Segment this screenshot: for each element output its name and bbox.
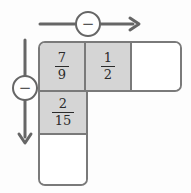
cell-left-2: 2 15 [40,92,86,135]
cell-left-answer[interactable] [40,135,86,184]
cell-top-answer[interactable] [132,43,180,90]
minus-icon: − [82,17,95,32]
fraction-grid-diagram: − − 7 9 1 2 2 15 [0,0,191,193]
cell-top-1: 7 9 [40,43,86,90]
vertical-minus-operator: − [12,75,38,101]
minus-icon: − [19,81,32,96]
fraction-denominator: 15 [52,112,75,128]
grid-top-row: 7 9 1 2 [38,41,182,92]
fraction-numerator: 2 [52,97,75,112]
fraction-denominator: 2 [101,66,115,82]
fraction-2-15: 2 15 [52,97,75,127]
fraction-numerator: 7 [55,51,69,66]
grid-left-column: 2 15 [38,92,88,186]
fraction-1-2: 1 2 [101,51,115,81]
fraction-denominator: 9 [55,66,69,82]
horizontal-minus-operator: − [75,11,101,37]
fraction-7-9: 7 9 [55,51,69,81]
fraction-numerator: 1 [101,51,115,66]
cell-top-2: 1 2 [86,43,132,90]
